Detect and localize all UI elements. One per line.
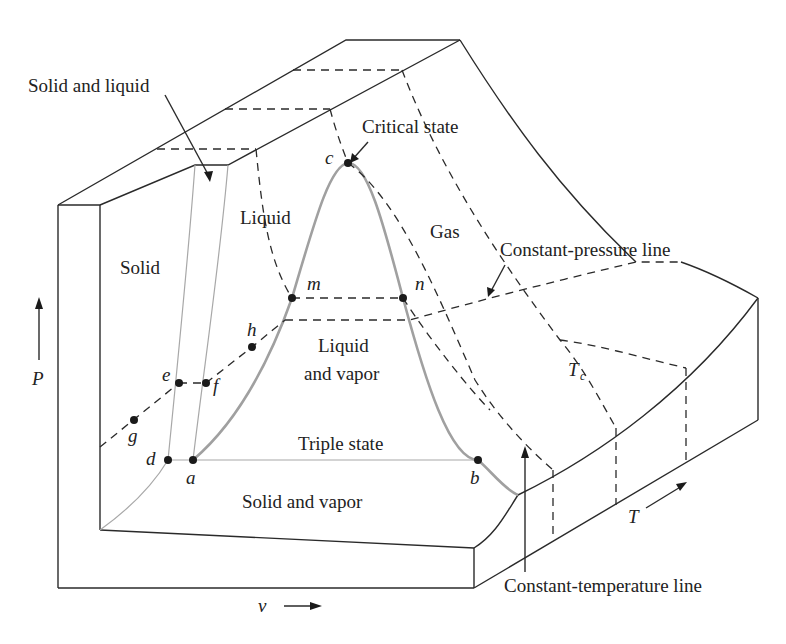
label-solid: Solid: [120, 257, 161, 278]
point-b: [474, 456, 482, 464]
point-a: [189, 456, 197, 464]
label-point-n: n: [415, 273, 425, 294]
label-liquid-vapor-2: and vapor: [304, 363, 380, 384]
label-axis-t: T: [628, 506, 640, 527]
t-axis-arrow: [646, 486, 682, 508]
label-gas: Gas: [430, 221, 460, 242]
label-constant-pressure-line: Constant-pressure line: [500, 239, 670, 260]
diagram-canvas: Solid and liquid Solid Liquid Gas Critic…: [0, 0, 786, 644]
pvt-surface-diagram: Solid and liquid Solid Liquid Gas Critic…: [0, 0, 786, 644]
label-point-a: a: [186, 467, 196, 488]
point-h: [248, 343, 256, 351]
point-g: [130, 416, 138, 424]
solid-liquid-pointer: [165, 95, 210, 178]
point-c: [344, 159, 352, 167]
label-point-b: b: [470, 467, 480, 488]
point-m: [288, 294, 296, 302]
label-critical-state: Critical state: [362, 116, 459, 137]
label-solid-and-liquid: Solid and liquid: [28, 75, 150, 96]
label-liquid-vapor-1: Liquid: [318, 335, 369, 356]
label-point-c: c: [325, 147, 334, 168]
label-point-h: h: [247, 319, 257, 340]
label-axis-p: P: [31, 368, 44, 389]
label-point-d: d: [146, 448, 156, 469]
point-d: [164, 456, 172, 464]
label-solid-and-vapor: Solid and vapor: [242, 491, 363, 512]
label-tc-sub: c: [580, 369, 586, 383]
label-point-e: e: [162, 364, 170, 385]
point-n: [399, 294, 407, 302]
label-axis-v: v: [258, 595, 267, 616]
labels: Solid and liquid Solid Liquid Gas Critic…: [28, 75, 702, 616]
label-point-g: g: [128, 425, 138, 446]
label-constant-temperature-line: Constant-temperature line: [504, 575, 702, 596]
point-f: [202, 379, 210, 387]
label-point-m: m: [307, 273, 321, 294]
label-point-f: f: [213, 375, 221, 396]
point-e: [175, 379, 183, 387]
label-liquid: Liquid: [240, 207, 291, 228]
label-triple-state: Triple state: [298, 433, 383, 454]
label-tc: T: [568, 359, 580, 380]
